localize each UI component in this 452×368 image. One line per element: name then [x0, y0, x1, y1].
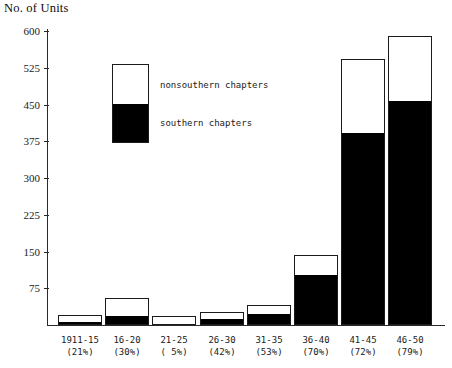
y-tick-label: 75 [0, 283, 40, 294]
y-tick-mark [44, 215, 49, 216]
bar [247, 305, 291, 325]
y-tick-label: 300 [0, 173, 40, 184]
y-tick-label: 150 [0, 247, 40, 258]
legend-swatch-southern [113, 104, 148, 143]
bar-segment-southern [248, 314, 290, 324]
y-tick-label: 225 [0, 210, 40, 221]
bar [200, 312, 244, 325]
y-tick-label: 525 [0, 63, 40, 74]
y-tick-label: 450 [0, 100, 40, 111]
y-axis-title: No. of Units [4, 1, 69, 16]
x-axis-line [47, 325, 445, 326]
bar-segment-southern [295, 275, 337, 324]
bar [58, 315, 102, 325]
bar-segment-southern [59, 322, 101, 324]
bar [294, 255, 338, 325]
bar [341, 59, 385, 325]
bar-chart: No. of Units 75150225300375450525600 191… [0, 0, 452, 368]
y-tick-mark [44, 178, 49, 179]
bar-segment-southern [201, 319, 243, 324]
y-tick-mark [44, 105, 49, 106]
x-axis-label: 46-50 (79%) [380, 334, 440, 358]
bar-segment-southern [389, 101, 431, 324]
y-tick-mark [44, 68, 49, 69]
y-tick-label: 375 [0, 136, 40, 147]
legend-label-nonsouthern: nonsouthern chapters [160, 80, 268, 90]
bar [388, 36, 432, 325]
y-tick-mark [44, 252, 49, 253]
bar [105, 298, 149, 325]
bar-segment-southern [106, 316, 148, 324]
y-tick-mark [44, 141, 49, 142]
legend-swatch [112, 64, 149, 143]
bar [152, 316, 196, 325]
y-tick-mark [44, 288, 49, 289]
y-tick-label: 600 [0, 26, 40, 37]
bar-segment-southern [342, 133, 384, 324]
y-tick-mark [44, 31, 49, 32]
legend-label-southern: southern chapters [160, 118, 252, 128]
